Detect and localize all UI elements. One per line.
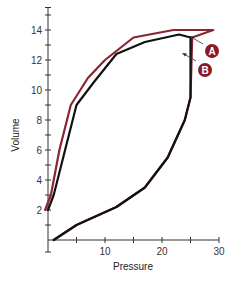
axes: 2468101214102030 — [31, 8, 225, 258]
series-lines — [45, 30, 213, 240]
y-tick-label: 6 — [36, 145, 42, 156]
y-tick-label: 14 — [31, 25, 43, 36]
badge-a-label: A — [208, 46, 215, 57]
y-tick-label: 12 — [31, 55, 43, 66]
y-axis-title: Volume — [10, 118, 21, 152]
series-a-line — [45, 30, 213, 240]
pressure-volume-chart: 2468101214102030 A B Pressure Volume — [0, 0, 239, 284]
y-tick-label: 10 — [31, 85, 43, 96]
y-tick-label: 2 — [36, 205, 42, 216]
arrowhead-b-icon — [182, 53, 187, 57]
annotation-a: A — [189, 36, 219, 58]
annotation-b: B — [182, 53, 212, 77]
x-axis-title: Pressure — [113, 261, 153, 272]
series-b-line — [48, 35, 191, 241]
x-tick-label: 10 — [99, 246, 111, 257]
x-tick-label: 30 — [213, 246, 225, 257]
x-tick-label: 20 — [156, 246, 168, 257]
badge-b-label: B — [201, 65, 208, 76]
y-tick-label: 4 — [36, 175, 42, 186]
y-tick-label: 8 — [36, 115, 42, 126]
